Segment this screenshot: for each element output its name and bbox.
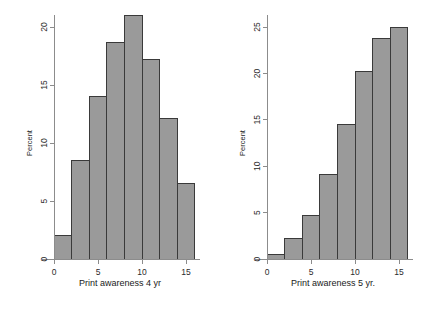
y-axis-title: Percent xyxy=(25,129,34,156)
y-tick-label: 5 xyxy=(39,198,49,203)
x-tick-label: 5 xyxy=(96,267,101,277)
histogram-bar xyxy=(72,160,90,259)
y-tick-label: 0 xyxy=(39,256,49,261)
y-tick-label: 25 xyxy=(252,22,262,32)
histogram-bar xyxy=(177,184,195,259)
y-tick-label: 10 xyxy=(252,161,262,171)
histogram-bar xyxy=(285,239,303,259)
x-axis-title: Print awareness 4 yr xyxy=(79,278,161,288)
x-tick-label: 15 xyxy=(394,267,404,277)
x-tick-label: 0 xyxy=(265,267,270,277)
y-tick-label: 0 xyxy=(252,256,262,261)
histogram-bar xyxy=(302,215,320,259)
histogram-bar xyxy=(107,42,125,259)
y-axis-title: Percent xyxy=(238,129,247,156)
x-tick-label: 0 xyxy=(52,267,57,277)
x-tick-label: 15 xyxy=(181,267,191,277)
histogram-bar xyxy=(373,38,391,259)
y-tick-label: 15 xyxy=(252,115,262,125)
y-tick-label: 15 xyxy=(39,80,49,90)
histogram-bar xyxy=(267,254,285,259)
x-tick-label: 5 xyxy=(309,267,314,277)
histogram-bar xyxy=(337,124,355,259)
histogram-bar xyxy=(355,72,373,259)
histogram-bar xyxy=(124,15,142,259)
histogram-bar xyxy=(89,97,107,259)
x-tick-label: 10 xyxy=(137,267,147,277)
y-tick-label: 20 xyxy=(39,22,49,32)
x-tick-label: 10 xyxy=(350,267,360,277)
histogram-right: 0510152025051015Print awareness 5 yr.Per… xyxy=(213,0,426,314)
y-tick-label: 20 xyxy=(252,68,262,78)
histogram-bar xyxy=(160,119,178,259)
y-tick-label: 10 xyxy=(39,138,49,148)
histogram-bar xyxy=(390,28,408,259)
chart-panel-right: 0510152025051015Print awareness 5 yr.Per… xyxy=(213,0,426,314)
histogram-bar xyxy=(142,59,160,259)
histogram-bar xyxy=(320,175,338,259)
chart-panel-left: 05101520051015Print awareness 4 yrPercen… xyxy=(0,0,213,314)
x-axis-title: Print awareness 5 yr. xyxy=(291,278,375,288)
y-tick-label: 5 xyxy=(252,210,262,215)
histogram-left: 05101520051015Print awareness 4 yrPercen… xyxy=(0,0,213,314)
figure-canvas: 05101520051015Print awareness 4 yrPercen… xyxy=(0,0,426,314)
histogram-bar xyxy=(54,236,72,259)
